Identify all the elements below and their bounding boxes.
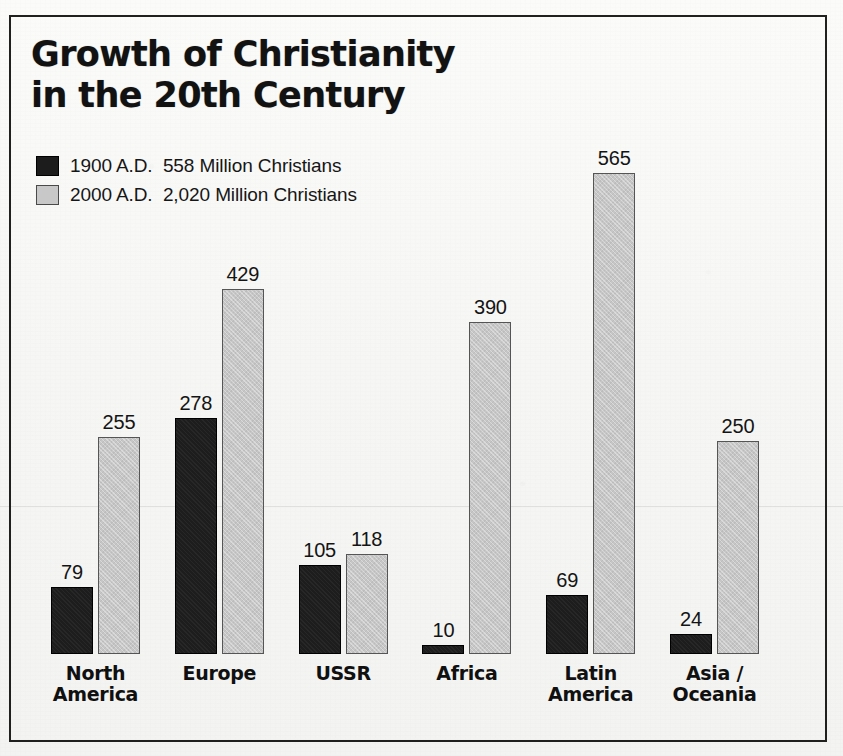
chart-frame [9, 15, 827, 742]
legend-swatch-2000 [36, 185, 59, 205]
legend-item-2000: 2000 A.D. 2,020 Million Christians [36, 181, 357, 208]
scanned-page: Growth of Christianity in the 20th Centu… [0, 0, 843, 756]
legend-label-1900: 1900 A.D. 558 Million Christians [70, 155, 341, 177]
chart-legend: 1900 A.D. 558 Million Christians 2000 A.… [36, 152, 357, 210]
legend-label-2000: 2000 A.D. 2,020 Million Christians [70, 184, 357, 206]
legend-item-1900: 1900 A.D. 558 Million Christians [36, 152, 357, 179]
page-title: Growth of Christianity in the 20th Centu… [31, 34, 551, 115]
legend-swatch-1900 [36, 156, 59, 176]
